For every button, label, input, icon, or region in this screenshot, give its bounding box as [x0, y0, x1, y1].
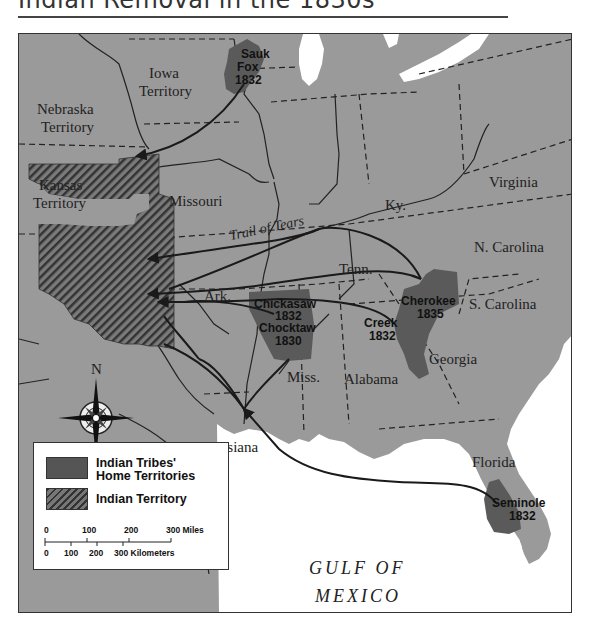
label-tribe-sauk: Sauk — [241, 47, 270, 61]
scale-mile-200: 200 — [124, 525, 138, 535]
label-tribe-creek: Creek — [364, 316, 398, 330]
label-north-carolina: N. Carolina — [474, 239, 544, 255]
legend-swatch-indian-territory — [46, 488, 88, 510]
map-legend: Indian Tribes' Home Territories Indian T… — [33, 442, 229, 570]
label-tribe-fox: Fox — [237, 60, 259, 74]
label-mississippi: Miss. — [287, 369, 320, 385]
label-gulf-of: GULF OF — [309, 558, 406, 578]
scale-mile-0: 0 — [44, 525, 49, 535]
legend-label-home-territories: Indian Tribes' Home Territories — [96, 457, 195, 483]
label-tribe-cherokee: Cherokee — [401, 294, 456, 308]
label-tennessee: Tenn. — [339, 261, 373, 277]
label-nebraska-territory: Nebraska — [37, 101, 94, 117]
label-kansas-territory-2: Territory — [33, 195, 87, 211]
legend-swatch-home-territories — [46, 457, 88, 479]
compass-north-label: N — [91, 361, 102, 377]
page-title: Indian Removal in the 1830s — [18, 0, 375, 14]
label-tribe-creek-year: 1832 — [369, 329, 396, 343]
label-georgia: Georgia — [429, 351, 477, 367]
scale-bar: 0 100 200 300 Miles 0 100 200 300 Kilome… — [44, 525, 224, 565]
scale-mile-300: 300 Miles — [166, 525, 204, 535]
scale-km-200: 200 — [89, 548, 103, 558]
legend-label-home-line2: Home Territories — [96, 470, 195, 483]
label-florida: Florida — [472, 454, 516, 470]
label-tribe-choctaw-year: 1830 — [275, 334, 302, 348]
scale-km-0: 0 — [44, 548, 49, 558]
scale-km-100: 100 — [64, 548, 78, 558]
label-arkansas: Ark. — [204, 288, 231, 304]
label-iowa-territory: Iowa — [149, 65, 179, 81]
label-alabama: Alabama — [344, 371, 398, 387]
label-tribe-cherokee-year: 1835 — [417, 307, 444, 321]
label-missouri: Missouri — [169, 193, 222, 209]
label-virginia: Virginia — [489, 174, 538, 190]
label-south-carolina: S. Carolina — [469, 296, 537, 312]
label-kentucky: Ky. — [385, 197, 406, 213]
label-iowa-territory-2: Territory — [139, 83, 193, 99]
label-kansas-territory: Kansas — [39, 177, 82, 193]
label-tribe-seminole: Seminole — [492, 496, 546, 510]
legend-label-indian-territory: Indian Territory — [96, 493, 187, 506]
scale-mile-100: 100 — [82, 525, 96, 535]
label-nebraska-territory-2: Territory — [41, 119, 95, 135]
scale-km-300: 300 Kilometers — [114, 548, 174, 558]
label-tribe-sauk-year: 1832 — [235, 73, 262, 87]
label-tribe-seminole-year: 1832 — [509, 509, 536, 523]
title-divider — [18, 16, 508, 18]
label-mexico: MEXICO — [314, 586, 401, 606]
map-frame: N Nebraska Territory Iowa Territory Kans… — [18, 33, 572, 613]
label-tribe-choctaw: Chocktaw — [259, 321, 316, 335]
